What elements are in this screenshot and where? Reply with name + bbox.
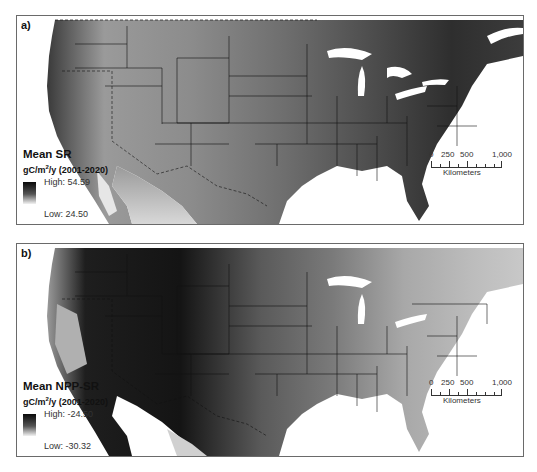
scale-bar: 0 250 500 1,000 Kilometers	[431, 150, 509, 190]
legend-low-label: Low: -30.32	[44, 441, 91, 451]
map-panel-mean-sr: a) Mean SR gC/m2/y (2001-2020) High: 54.…	[16, 15, 524, 225]
scale-ticks	[431, 161, 502, 168]
map-panel-mean-npp-sr: b) Mean NPP-SR gC/m2/y (2001-2020) High:…	[16, 243, 524, 457]
legend-mean-sr: Mean SR gC/m2/y (2001-2020) High: 54.59 …	[23, 148, 108, 220]
legend-title: Mean SR	[23, 148, 108, 161]
legend-mean-npp-sr: Mean NPP-SR gC/m2/y (2001-2020) High: -2…	[23, 380, 108, 452]
legend-high-label: High: 54.59	[44, 177, 90, 187]
scale-ticks	[431, 389, 502, 396]
scale-units: Kilometers	[443, 168, 481, 177]
color-ramp	[23, 414, 36, 436]
panel-label-b: b)	[21, 247, 31, 259]
scale-bar: 0 250 500 1,000 Kilometers	[431, 378, 509, 418]
legend-unit: gC/m2/y (2001-2020)	[23, 161, 108, 176]
legend-title: Mean NPP-SR	[23, 380, 108, 393]
legend-unit: gC/m2/y (2001-2020)	[23, 393, 108, 408]
panel-label-a: a)	[21, 19, 31, 31]
color-ramp	[23, 182, 36, 204]
legend-high-label: High: -24.50	[44, 409, 93, 419]
scale-units: Kilometers	[443, 396, 481, 405]
legend-low-label: Low: 24.50	[44, 209, 88, 219]
